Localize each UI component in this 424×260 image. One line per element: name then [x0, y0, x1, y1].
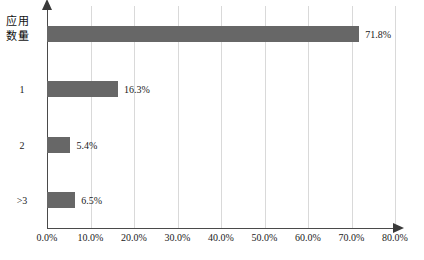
bar-value-label: 16.3% — [124, 84, 150, 95]
x-tick-label: 40.0% — [208, 232, 234, 243]
bar — [47, 81, 118, 97]
x-axis-line — [47, 228, 395, 229]
x-tick-label: 10.0% — [78, 232, 104, 243]
bar-value-label: 6.5% — [81, 195, 102, 206]
x-tick-label: 20.0% — [121, 232, 147, 243]
x-tick-label: 0.0% — [37, 232, 58, 243]
bar-series: 71.8%16.3%5.4%6.5% — [47, 6, 395, 228]
x-tick-label: 70.0% — [339, 232, 365, 243]
category-label: 2 — [2, 139, 42, 150]
bar-chart: 应用 数量 71.8%16.3%5.4%6.5% 012>3 0.0%10.0%… — [0, 0, 424, 260]
bar-row: 5.4% — [47, 137, 395, 153]
x-tick-label: 30.0% — [165, 232, 191, 243]
bar-value-label: 71.8% — [365, 28, 391, 39]
category-label: >3 — [2, 195, 42, 206]
gridline — [395, 6, 396, 228]
bar-row: 71.8% — [47, 26, 395, 42]
bar — [47, 192, 75, 208]
bar-row: 16.3% — [47, 81, 395, 97]
x-tick-label: 50.0% — [252, 232, 278, 243]
x-tick-label: 80.0% — [382, 232, 408, 243]
category-label: 1 — [2, 84, 42, 95]
bar — [47, 26, 359, 42]
category-label: 0 — [2, 28, 42, 39]
bar-row: 6.5% — [47, 192, 395, 208]
y-axis-tick-labels: 012>3 — [0, 0, 42, 260]
bar — [47, 137, 70, 153]
x-tick-label: 60.0% — [295, 232, 321, 243]
bar-value-label: 5.4% — [76, 139, 97, 150]
